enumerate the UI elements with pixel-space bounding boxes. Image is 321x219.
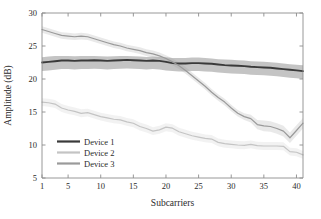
x-tick-label: 10 xyxy=(96,181,105,191)
y-tick-label: 20 xyxy=(29,74,38,84)
y-tick-label: 10 xyxy=(29,140,38,150)
x-tick-label: 5 xyxy=(66,181,70,191)
legend-label-device-3: Device 3 xyxy=(84,159,114,169)
x-tick-label: 1 xyxy=(40,181,44,191)
x-axis-title: Subcarriers xyxy=(151,198,195,208)
y-tick-label: 30 xyxy=(29,8,38,18)
chart-figure: 1510152025303540 51015202530 Subcarriers… xyxy=(0,0,321,219)
x-tick-label: 30 xyxy=(227,181,236,191)
y-axis-title: Amplitude (dB) xyxy=(3,65,14,125)
amplitude-vs-subcarriers-chart: 1510152025303540 51015202530 Subcarriers… xyxy=(0,0,321,219)
legend-label-device-1: Device 1 xyxy=(84,137,114,147)
chart-legend: Device 1 Device 2 Device 3 xyxy=(57,137,114,169)
legend-label-device-2: Device 2 xyxy=(84,148,114,158)
x-tick-label: 20 xyxy=(162,181,171,191)
y-tick-label: 15 xyxy=(29,107,38,117)
x-tick-label: 15 xyxy=(129,181,138,191)
x-tick-label: 25 xyxy=(194,181,203,191)
x-tick-label: 35 xyxy=(260,181,269,191)
y-tick-label: 5 xyxy=(33,173,37,183)
x-tick-label: 40 xyxy=(292,181,301,191)
y-tick-label: 25 xyxy=(29,41,38,51)
